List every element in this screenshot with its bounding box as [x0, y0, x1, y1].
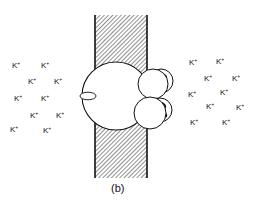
- potassium-ion-right: K+: [190, 119, 198, 127]
- potassium-ion-left: K+: [12, 62, 20, 70]
- potassium-ion-left: K+: [54, 78, 62, 86]
- potassium-ion-left: K+: [10, 126, 18, 134]
- potassium-ion-right: K+: [188, 91, 196, 99]
- membrane-channel-diagram: [0, 0, 255, 205]
- potassium-ion-right: K+: [206, 103, 214, 111]
- subunit-upper: [138, 69, 168, 99]
- figure-caption: (b): [111, 182, 124, 194]
- channel-pore: [80, 92, 96, 100]
- potassium-ion-right: K+: [236, 104, 244, 112]
- potassium-ion-left: K+: [56, 112, 64, 120]
- subunit-lower: [134, 97, 166, 129]
- potassium-ion-right: K+: [232, 75, 240, 83]
- potassium-ion-left: K+: [41, 95, 49, 103]
- potassium-ion-right: K+: [220, 89, 228, 97]
- potassium-ion-right: K+: [189, 59, 197, 67]
- potassium-ion-left: K+: [41, 62, 49, 70]
- potassium-ion-right: K+: [204, 75, 212, 83]
- potassium-ion-left: K+: [14, 95, 22, 103]
- potassium-ion-left: K+: [43, 127, 51, 135]
- potassium-ion-right: K+: [222, 119, 230, 127]
- potassium-ion-left: K+: [30, 112, 38, 120]
- potassium-ion-left: K+: [28, 78, 36, 86]
- potassium-ion-right: K+: [216, 58, 224, 66]
